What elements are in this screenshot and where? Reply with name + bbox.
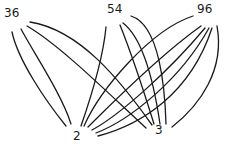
top-node-54: 54: [107, 3, 122, 15]
edge-36-to-3: [27, 26, 146, 128]
edge-96-to-3: [172, 26, 219, 127]
top-node-36: 36: [4, 7, 19, 19]
edge-36-to-3: [30, 22, 152, 125]
edge-96-to-2: [98, 28, 212, 136]
top-node-96: 96: [197, 3, 212, 15]
edge-96-to-2: [84, 16, 193, 126]
bottom-node-3: 3: [155, 124, 163, 136]
edge-36-to-2: [21, 29, 71, 124]
edge-96-to-2: [88, 26, 201, 127]
graph-edges: [0, 0, 229, 149]
edge-36-to-2: [12, 32, 66, 126]
edge-54-to-2: [81, 27, 106, 126]
bottom-node-2: 2: [73, 130, 81, 142]
